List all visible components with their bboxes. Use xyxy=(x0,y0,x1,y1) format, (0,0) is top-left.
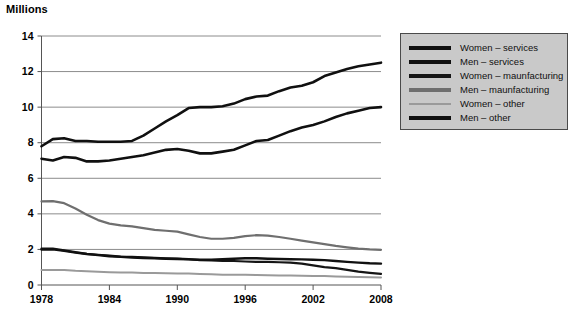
series-line-3 xyxy=(42,201,382,250)
chart-legend: Women – services Men – services Women – … xyxy=(400,33,568,130)
x-tick-label: 1984 xyxy=(98,293,122,305)
x-tick-marks-group xyxy=(42,285,382,290)
x-tick-label: 1990 xyxy=(166,293,190,305)
y-axis-tick-labels: 02468101214 xyxy=(22,30,34,291)
legend-item-label: Men – services xyxy=(460,57,524,67)
legend-item: Women – services xyxy=(401,41,567,55)
legend-item: Men – services xyxy=(401,55,567,69)
legend-swatch-icon xyxy=(409,116,451,120)
chart-container: Millions 02468101214 1978198419901996200… xyxy=(0,0,577,314)
legend-item: Women – maunfacturing xyxy=(401,69,567,83)
legend-item: Women – other xyxy=(401,97,567,111)
legend-item-label: Women – maunfacturing xyxy=(460,71,563,81)
legend-swatch-icon xyxy=(409,60,451,64)
legend-item: Men – maunfacturing xyxy=(401,83,567,97)
legend-item: Men – other xyxy=(401,111,567,125)
y-tick-label: 10 xyxy=(22,101,34,113)
y-tick-label: 14 xyxy=(22,30,34,42)
y-tick-label: 12 xyxy=(22,65,34,77)
legend-swatch-icon xyxy=(409,74,451,78)
x-tick-label: 2002 xyxy=(301,293,325,305)
legend-item-label: Men – other xyxy=(460,113,511,123)
y-tick-label: 2 xyxy=(28,243,34,255)
legend-item-label: Men – maunfacturing xyxy=(460,85,549,95)
series-line-4 xyxy=(42,270,382,278)
legend-swatch-icon xyxy=(409,88,451,92)
legend-swatch-icon xyxy=(409,46,451,50)
y-tick-label: 0 xyxy=(28,279,34,291)
x-axis-tick-labels: 197819841990199620022008 xyxy=(30,293,393,305)
legend-item-label: Women – other xyxy=(460,99,525,109)
legend-item-label: Women – services xyxy=(460,43,538,53)
data-series-group xyxy=(42,63,382,278)
y-tick-label: 4 xyxy=(28,207,34,219)
x-tick-label: 1996 xyxy=(234,293,258,305)
legend-swatch-icon xyxy=(409,103,451,106)
series-line-1 xyxy=(42,107,382,161)
x-tick-label: 2008 xyxy=(369,293,393,305)
series-line-0 xyxy=(42,63,382,147)
y-tick-label: 6 xyxy=(28,172,34,184)
y-tick-label: 8 xyxy=(28,136,34,148)
x-tick-label: 1978 xyxy=(30,293,54,305)
